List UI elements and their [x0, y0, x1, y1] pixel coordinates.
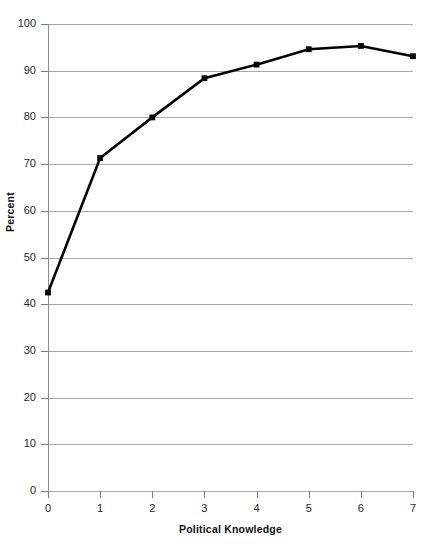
y-axis-tick-label: 20 — [0, 392, 36, 403]
gridline — [48, 24, 413, 25]
x-axis-tick — [204, 491, 205, 498]
y-axis-tick — [41, 24, 48, 25]
x-axis-tick-label: 0 — [28, 502, 68, 514]
x-axis-tick — [309, 491, 310, 498]
gridline — [48, 304, 413, 305]
y-axis-tick — [41, 351, 48, 352]
y-axis-tick — [41, 71, 48, 72]
y-axis-line — [48, 24, 49, 492]
y-axis-tick-label: 30 — [0, 345, 36, 356]
x-axis-tick — [48, 491, 49, 498]
x-axis-tick-label: 4 — [237, 502, 277, 514]
y-axis-tick — [41, 258, 48, 259]
y-axis-tick — [41, 164, 48, 165]
y-axis-tick — [41, 444, 48, 445]
chart-container: 0102030405060708090100 01234567 Politica… — [0, 0, 441, 549]
y-axis-tick-label: 80 — [0, 111, 36, 122]
gridline — [48, 444, 413, 445]
gridline — [48, 491, 413, 492]
gridline — [48, 117, 413, 118]
y-axis-title: Percent — [4, 192, 16, 232]
x-axis-tick — [413, 491, 414, 498]
y-axis-tick — [41, 491, 48, 492]
gridline — [48, 258, 413, 259]
x-axis-tick-label: 1 — [80, 502, 120, 514]
x-axis-tick — [100, 491, 101, 498]
x-axis-title: Political Knowledge — [48, 523, 413, 535]
y-axis-tick-label: 10 — [0, 438, 36, 449]
x-axis-tick-label: 5 — [289, 502, 329, 514]
gridline — [48, 211, 413, 212]
x-axis-tick-label: 3 — [184, 502, 224, 514]
plot-area — [48, 24, 413, 491]
y-axis-tick-label: 0 — [0, 485, 36, 496]
x-axis-tick-label: 2 — [132, 502, 172, 514]
y-axis-tick — [41, 304, 48, 305]
gridline — [48, 71, 413, 72]
y-axis-tick — [41, 398, 48, 399]
y-axis-tick — [41, 117, 48, 118]
y-axis-tick-label: 90 — [0, 65, 36, 76]
x-axis-tick — [257, 491, 258, 498]
x-axis-tick — [361, 491, 362, 498]
y-axis-tick — [41, 211, 48, 212]
x-axis-tick-label: 6 — [341, 502, 381, 514]
y-axis-tick-label: 50 — [0, 252, 36, 263]
x-axis-tick-label: 7 — [393, 502, 433, 514]
x-axis-tick — [152, 491, 153, 498]
gridline — [48, 164, 413, 165]
gridline — [48, 398, 413, 399]
y-axis-tick-label: 40 — [0, 298, 36, 309]
gridline — [48, 351, 413, 352]
y-axis-tick-label: 70 — [0, 158, 36, 169]
y-axis-tick-label: 100 — [0, 18, 36, 29]
